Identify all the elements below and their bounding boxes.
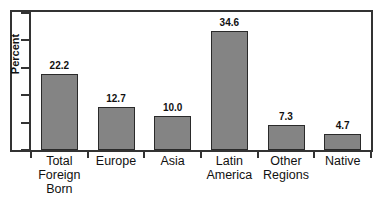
x-axis-tick [30, 152, 32, 158]
bar-value-label: 34.6 [201, 17, 258, 28]
x-axis-tick [313, 152, 315, 158]
x-axis-tick [200, 152, 202, 158]
bar [324, 134, 361, 150]
y-axis-tick [21, 12, 30, 14]
x-axis-tick [370, 152, 372, 158]
bar [211, 31, 248, 150]
bar-value-label: 22.2 [31, 60, 88, 71]
bar-chart: Percent 22.2Total Foreign Born12.7Europe… [0, 0, 384, 198]
x-axis-category-label: Native [309, 154, 376, 168]
bar-value-label: 4.7 [314, 120, 371, 131]
bar [268, 125, 305, 150]
y-axis-tick [21, 149, 30, 151]
y-axis-tick [21, 94, 30, 96]
bar-value-label: 12.7 [88, 93, 145, 104]
bar [98, 107, 135, 150]
x-axis-tick [143, 152, 145, 158]
bar-value-label: 7.3 [258, 111, 315, 122]
bars-layer: 22.2Total Foreign Born12.7Europe10.0Asia… [0, 0, 384, 198]
bar [41, 74, 78, 150]
y-axis-tick [21, 122, 30, 124]
bar [154, 116, 191, 150]
y-axis-tick [21, 39, 30, 41]
x-axis-tick [257, 152, 259, 158]
bar-value-label: 10.0 [144, 102, 201, 113]
x-axis-tick [87, 152, 89, 158]
y-axis-tick [21, 67, 30, 69]
